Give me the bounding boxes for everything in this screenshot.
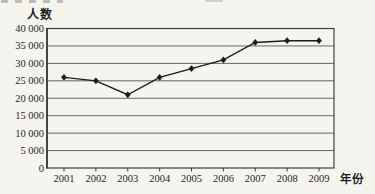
x-tick-label: 2006 — [213, 173, 234, 184]
y-tick-label: 25 000 — [15, 75, 44, 86]
y-axis-title: 人数 — [27, 5, 53, 23]
line-chart: 05 00010 00015 00020 00025 00030 00035 0… — [0, 0, 375, 194]
data-point-marker — [252, 39, 258, 46]
y-tick-label: 40 000 — [15, 23, 44, 34]
data-point-marker — [220, 56, 226, 63]
data-point-marker — [125, 91, 131, 98]
y-tick-label: 10 000 — [15, 128, 44, 139]
data-point-marker — [61, 74, 67, 81]
x-tick-label: 2004 — [149, 173, 171, 184]
x-tick-label: 2005 — [181, 173, 202, 184]
x-tick-label: 2009 — [309, 173, 330, 184]
clipped-text-fragment — [205, 0, 223, 2]
data-point-marker — [316, 37, 322, 44]
y-tick-label: 5 000 — [20, 145, 44, 156]
data-point-marker — [93, 77, 99, 84]
x-tick-label: 2007 — [245, 173, 266, 184]
y-tick-label: 30 000 — [15, 58, 44, 69]
data-point-marker — [189, 65, 195, 72]
x-tick-label: 2008 — [277, 173, 298, 184]
scanned-chart-page: 人数 05 00010 00015 00020 00025 00030 0003… — [0, 0, 375, 194]
x-tick-label: 2001 — [54, 173, 75, 184]
clipped-text-fragment — [1, 0, 63, 3]
x-axis-title: 年份 — [340, 170, 364, 186]
y-tick-label: 20 000 — [15, 93, 44, 104]
y-tick-label: 0 — [39, 163, 44, 174]
y-tick-label: 15 000 — [15, 110, 44, 121]
y-tick-label: 35 000 — [15, 40, 44, 51]
x-tick-label: 2002 — [85, 173, 106, 184]
data-point-marker — [157, 74, 163, 81]
data-point-marker — [284, 37, 290, 44]
x-tick-label: 2003 — [117, 173, 138, 184]
